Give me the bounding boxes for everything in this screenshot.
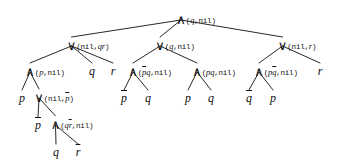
tree-internal-node: ∧(pq,nil) — [128, 62, 171, 78]
tree-leaf-node: p — [185, 89, 191, 105]
tree-leaf-node: p — [35, 116, 41, 132]
node-arguments: (nil,p) — [44, 95, 74, 103]
tree-edge-layer — [0, 0, 341, 165]
tree-leaf-node: q — [53, 143, 59, 159]
node-arguments: (q,nil) — [165, 43, 195, 51]
node-arguments: (p,nil) — [35, 69, 65, 77]
connective-glyph: ∨ — [34, 90, 44, 105]
expression-tree-figure: ∧(q,nil)∨(nil,qr)∨(q,nil)∨(nil,r)∧(p,nil… — [0, 0, 341, 165]
tree-leaf-node: r — [111, 62, 116, 78]
tree-internal-node: ∧(p,nil) — [25, 62, 64, 78]
tree-edge — [72, 20, 182, 37]
node-arguments: (qr,nil) — [60, 122, 93, 130]
tree-internal-node: ∧(pq,nil) — [254, 62, 297, 78]
tree-internal-node: ∨(nil,r) — [278, 36, 316, 52]
connective-glyph: ∧ — [51, 117, 61, 132]
node-arguments: (pq,nil) — [264, 69, 298, 77]
tree-internal-node: ∧(q,nil) — [176, 10, 215, 26]
tree-leaf-node: q — [208, 89, 214, 105]
connective-glyph: ∧ — [128, 64, 138, 79]
node-arguments: (pq,nil) — [202, 69, 236, 77]
connective-glyph: ∧ — [254, 64, 264, 79]
tree-leaf-node: p — [121, 89, 127, 105]
connective-glyph: ∨ — [67, 38, 77, 53]
connective-glyph: ∨ — [278, 38, 288, 53]
tree-leaf-node: q — [246, 89, 252, 105]
tree-internal-node: ∨(q,nil) — [155, 36, 194, 52]
tree-leaf-node: p — [19, 89, 25, 105]
connective-glyph: ∨ — [155, 38, 165, 53]
node-arguments: (nil,qr) — [76, 43, 109, 51]
tree-edge — [30, 46, 71, 63]
node-arguments: (q,nil) — [186, 17, 216, 25]
connective-glyph: ∧ — [25, 64, 35, 79]
tree-leaf-node: p — [270, 89, 276, 105]
tree-internal-node: ∧(pq,nil) — [192, 62, 235, 78]
node-arguments: (pq,nil) — [138, 69, 172, 77]
node-arguments: (nil,r) — [287, 43, 316, 51]
tree-internal-node: ∧(qr,nil) — [51, 115, 94, 131]
tree-leaf-node: q — [145, 89, 151, 105]
tree-internal-node: ∨(nil,qr) — [67, 36, 110, 52]
connective-glyph: ∧ — [192, 64, 202, 79]
tree-leaf-node: r — [76, 143, 81, 159]
tree-leaf-node: q — [89, 62, 95, 78]
connective-glyph: ∧ — [176, 12, 186, 27]
tree-leaf-node: r — [318, 62, 323, 78]
tree-internal-node: ∨(nil,p) — [34, 88, 73, 104]
